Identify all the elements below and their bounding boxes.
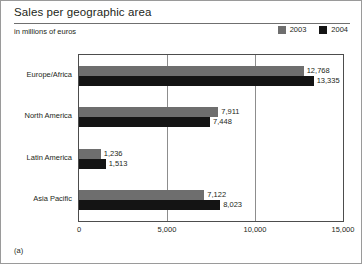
bar-row: 7,122 (79, 190, 343, 200)
figure-caption: (a) (14, 246, 23, 255)
bar-row: 13,335 (79, 76, 343, 86)
bar-2004 (79, 117, 210, 127)
bar-2003 (79, 190, 204, 200)
bar-value-label: 7,448 (210, 117, 232, 127)
category-label-north-america: North America (0, 111, 72, 120)
bar-2003 (79, 149, 101, 159)
figure-container: Sales per geographic area in millions of… (0, 0, 362, 264)
bar-2004 (79, 159, 106, 169)
x-tick-label: 15,000 (332, 225, 355, 234)
plot-area: 12,76813,3357,9117,4481,2361,5137,1228,0… (78, 54, 344, 222)
legend-entry-2003: 2003 (278, 26, 307, 34)
category-label-latin-america: Latin America (0, 153, 72, 162)
page-title: Sales per geographic area (14, 6, 151, 18)
bar-2004 (79, 200, 220, 210)
x-tick-label: 5,000 (158, 225, 177, 234)
bar-row: 1,513 (79, 159, 343, 169)
figure-subtitle: in millions of euros (14, 27, 76, 36)
bar-2003 (79, 107, 218, 117)
bar-group: 1,2361,513 (79, 149, 343, 169)
category-label-asia-pacific: Asia Pacific (0, 194, 72, 203)
x-tick-label: 10,000 (244, 225, 267, 234)
bar-value-label: 7,122 (204, 190, 226, 200)
bar-row: 7,448 (79, 117, 343, 127)
bar-group: 12,76813,335 (79, 66, 343, 86)
legend-label: 2004 (331, 26, 348, 34)
x-tick-label: 0 (77, 225, 81, 234)
bar-value-label: 13,335 (314, 76, 340, 86)
bar-value-label: 8,023 (220, 200, 242, 210)
bar-row: 1,236 (79, 149, 343, 159)
legend-label: 2003 (290, 26, 307, 34)
bar-group: 7,1228,023 (79, 190, 343, 210)
bar-row: 7,911 (79, 107, 343, 117)
legend-swatch-icon (278, 26, 286, 34)
legend-swatch-icon (319, 26, 327, 34)
chart-legend: 20032004 (278, 26, 348, 34)
bar-row: 12,768 (79, 66, 343, 76)
legend-entry-2004: 2004 (319, 26, 348, 34)
bar-value-label: 7,911 (218, 107, 239, 117)
bar-2003 (79, 66, 304, 76)
category-label-europe-africa: Europe/Africa (0, 70, 72, 79)
bar-value-label: 12,768 (304, 66, 330, 76)
title-divider (14, 23, 350, 24)
bar-2004 (79, 76, 314, 86)
bar-value-label: 1,513 (106, 159, 128, 169)
bar-row: 8,023 (79, 200, 343, 210)
bar-group: 7,9117,448 (79, 107, 343, 127)
bar-value-label: 1,236 (101, 149, 123, 159)
